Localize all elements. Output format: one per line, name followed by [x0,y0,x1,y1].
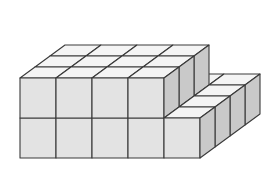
cube-front-face [164,118,200,158]
cube-front-face [20,78,56,118]
cube-front-face [92,118,128,158]
cube-front-face [20,118,56,158]
cube-front-face [92,78,128,118]
cube-front-face [56,78,92,118]
isometric-cube-stack-illustration [0,0,273,170]
cube-front-face [56,118,92,158]
cube-faces-group [20,45,260,158]
cube-front-face [128,118,164,158]
cube-front-face [128,78,164,118]
figure-canvas [0,0,273,170]
